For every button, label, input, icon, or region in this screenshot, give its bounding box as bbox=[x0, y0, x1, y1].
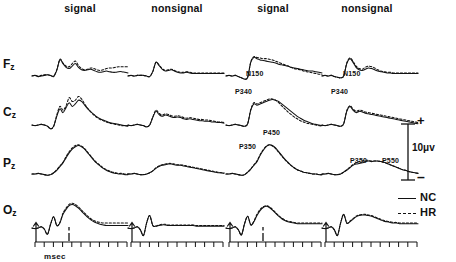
row-label-cz-text: C bbox=[3, 105, 12, 119]
stimulus-onset-arrow-icon bbox=[129, 223, 135, 243]
legend-label-nc: NC bbox=[420, 191, 436, 203]
stimulus-onset-arrow-icon bbox=[227, 223, 233, 243]
row-label-fz-sub: z bbox=[10, 62, 14, 72]
row-label-oz-sub: z bbox=[12, 208, 16, 218]
row-label-pz-sub: z bbox=[11, 161, 15, 171]
row-label-cz: Cz bbox=[3, 105, 16, 119]
waveform-panel-cz-signal-1 bbox=[32, 85, 128, 135]
stimulus-onset-arrow-icon bbox=[323, 223, 329, 243]
calibration-bar: + 10μv – bbox=[396, 118, 452, 190]
peak-label-p340-2: P340 bbox=[235, 88, 252, 95]
trace-nc bbox=[226, 100, 322, 127]
trace-nc bbox=[128, 62, 224, 77]
trace-hr bbox=[128, 62, 224, 77]
column-header-nonsignal-1: nonsignal bbox=[132, 2, 222, 14]
calibration-label: 10μv bbox=[412, 142, 435, 153]
peak-label-p350-4: P350 bbox=[239, 143, 256, 150]
axis-caption-msec: msec bbox=[44, 252, 66, 261]
legend-swatch-solid bbox=[398, 198, 416, 199]
trace-hr bbox=[128, 110, 224, 127]
time-axis-3 bbox=[227, 232, 327, 248]
peak-label-p350-6: P350 bbox=[350, 157, 367, 164]
peak-label-p450-5: P450 bbox=[263, 129, 280, 136]
column-header-signal-2: signal bbox=[228, 2, 318, 14]
trace-nc bbox=[128, 111, 224, 127]
row-label-oz: Oz bbox=[3, 203, 17, 217]
waveform-panel-pz-signal-2 bbox=[226, 134, 322, 184]
waveform-panel-fz-nonsignal-2 bbox=[322, 36, 418, 86]
waveform-panel-fz-nonsignal-1 bbox=[128, 36, 224, 86]
legend-label-hr: HR bbox=[420, 206, 436, 218]
calibration-positive-sign: + bbox=[417, 114, 425, 127]
row-label-cz-sub: z bbox=[12, 110, 16, 120]
trace-nc bbox=[32, 145, 128, 175]
row-label-pz-text: P bbox=[3, 156, 11, 170]
waveform-panel-oz-signal-2 bbox=[226, 188, 322, 238]
row-label-oz-text: O bbox=[3, 203, 12, 217]
waveform-panel-pz-signal-1 bbox=[32, 134, 128, 184]
trace-hr bbox=[226, 206, 322, 235]
erp-figure: signal nonsignal signal nonsignal Fz Cz … bbox=[0, 0, 456, 262]
trace-hr bbox=[32, 145, 128, 175]
trace-hr bbox=[226, 57, 322, 80]
time-axis-1 bbox=[33, 232, 133, 248]
peak-label-n150-0: N150 bbox=[246, 70, 264, 77]
column-header-nonsignal-2: nonsignal bbox=[322, 2, 412, 14]
trace-hr bbox=[32, 203, 128, 234]
peak-label-p340-3: P340 bbox=[331, 88, 348, 95]
waveform-panel-oz-nonsignal-1 bbox=[128, 188, 224, 238]
row-label-fz: Fz bbox=[3, 57, 15, 71]
waveform-panel-fz-signal-1 bbox=[32, 36, 128, 86]
time-axis-2 bbox=[129, 232, 229, 248]
calibration-negative-sign: – bbox=[417, 170, 425, 184]
waveform-panel-cz-nonsignal-1 bbox=[128, 85, 224, 135]
column-header-signal-1: signal bbox=[35, 2, 125, 14]
waveform-panel-fz-signal-2 bbox=[226, 36, 322, 86]
waveform-panel-pz-nonsignal-1 bbox=[128, 134, 224, 184]
stimulus-onset-arrow-icon bbox=[33, 223, 39, 243]
trace-nc bbox=[128, 164, 224, 175]
row-label-pz: Pz bbox=[3, 156, 15, 170]
time-axis-4 bbox=[323, 232, 423, 248]
legend-item-nc: NC bbox=[398, 192, 456, 207]
trace-nc bbox=[322, 59, 418, 78]
legend-item-hr: HR bbox=[398, 207, 456, 222]
trace-hr bbox=[32, 59, 128, 76]
waveform-panel-oz-signal-1 bbox=[32, 188, 128, 238]
legend: NC HR bbox=[398, 192, 456, 222]
legend-swatch-dashed bbox=[398, 213, 416, 214]
peak-label-n150-1: N150 bbox=[343, 70, 361, 77]
